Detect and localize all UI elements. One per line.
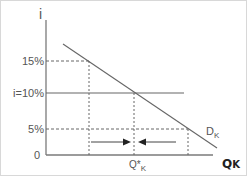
- demand-curve-label: DK: [206, 125, 220, 140]
- capital-demand-diagram: i 15% i=10% 5% 0 Q*K DK QK: [1, 1, 246, 175]
- arrow-left-icon: [138, 139, 176, 146]
- diagram-frame: i 15% i=10% 5% 0 Q*K DK QK: [0, 0, 247, 176]
- x-axis-label: QK: [222, 157, 241, 171]
- origin-label: 0: [34, 149, 40, 161]
- equilibrium-label: Q*K: [129, 159, 147, 173]
- rate-10-label: i=10%: [13, 87, 44, 99]
- rate-15-label: 15%: [22, 55, 44, 67]
- demand-curve: [63, 44, 217, 148]
- rate-5-label: 5%: [28, 123, 44, 135]
- arrow-right-icon: [91, 139, 131, 146]
- y-axis-label: i: [39, 6, 42, 22]
